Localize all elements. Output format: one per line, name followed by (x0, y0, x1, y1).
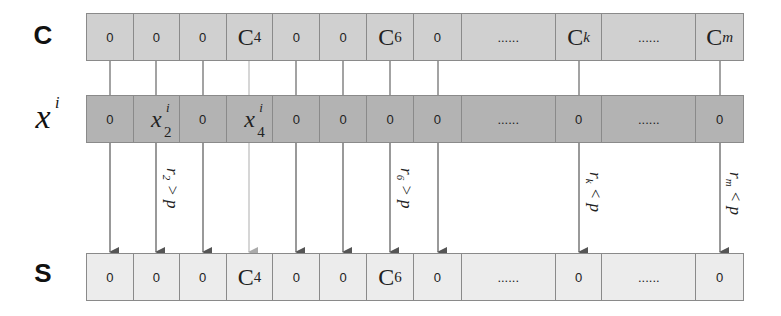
cell: 0 (696, 96, 743, 142)
cell: 0 (320, 254, 367, 300)
cell: 0 (134, 254, 180, 300)
cell: 0 (696, 254, 743, 300)
cell: 0 (414, 14, 462, 60)
cell: 0 (414, 254, 462, 300)
cell: 0 (273, 14, 320, 60)
row-label-x: xi (0, 98, 86, 136)
cell-x2: xi2 (134, 96, 180, 142)
cell-c4: C4 (227, 254, 274, 300)
cell: 0 (367, 96, 414, 142)
cell: 0 (134, 14, 180, 60)
cell: 0 (320, 14, 367, 60)
row-label-s: S (0, 258, 86, 289)
ellipsis-cell: ...... (602, 14, 696, 60)
cell: 0 (87, 254, 134, 300)
cell: 0 (414, 96, 462, 142)
cell: 0 (180, 14, 227, 60)
cell-c6: C6 (367, 14, 414, 60)
cell: 0 (556, 254, 603, 300)
cell: 0 (180, 96, 227, 142)
row-x: 0 xi2 0 xi4 0 0 0 0 ...... 0 ...... 0 (86, 95, 744, 143)
condition-label-r2: r2 > p (161, 168, 182, 209)
cell: 0 (273, 254, 320, 300)
cell-c4: C4 (227, 14, 274, 60)
cell: 0 (87, 96, 134, 142)
row-label-c: C (0, 20, 86, 51)
ellipsis-cell: ...... (462, 14, 556, 60)
cell: 0 (320, 96, 367, 142)
condition-label-rk: rk < p (584, 172, 605, 212)
condition-label-r6: r6 > p (395, 168, 416, 209)
cell-cm: Cm (696, 14, 743, 60)
cell: 0 (87, 14, 134, 60)
cell-ck: Ck (556, 14, 603, 60)
condition-label-rm: rm < p (724, 172, 745, 215)
row-c: 0 0 0 C4 0 0 C6 0 ...... Ck ...... Cm (86, 13, 744, 61)
cell: 0 (556, 96, 603, 142)
ellipsis-cell: ...... (602, 96, 696, 142)
row-s: 0 0 0 C4 0 0 C6 0 ...... 0 ...... 0 (86, 253, 744, 301)
cell-c6: C6 (367, 254, 414, 300)
ellipsis-cell: ...... (602, 254, 696, 300)
cell-x4: xi4 (227, 96, 274, 142)
ellipsis-cell: ...... (462, 254, 556, 300)
cell: 0 (180, 254, 227, 300)
cell: 0 (273, 96, 320, 142)
ellipsis-cell: ...... (462, 96, 556, 142)
